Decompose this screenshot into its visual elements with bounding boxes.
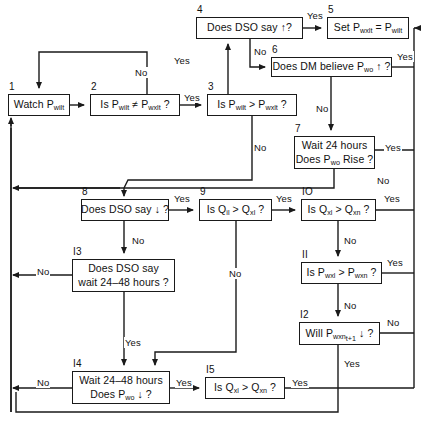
- lbl-13-yes: Yes: [124, 337, 142, 348]
- lbl-6-no: No: [315, 103, 329, 114]
- edge-3-no-down: [124, 116, 252, 188]
- lbl-8-no: No: [131, 235, 145, 246]
- lbl-15-yes: Yes: [291, 377, 309, 388]
- lbl-4-no: No: [253, 46, 267, 57]
- lbl-12-yes: Yes: [343, 358, 361, 369]
- node-15[interactable]: Is Qxl > Qxn ?: [205, 377, 285, 399]
- node-number-3: 3: [208, 81, 214, 92]
- node-8-line-0: Does DSO say ↓ ?: [81, 203, 169, 216]
- node-number-1: 1: [9, 81, 15, 92]
- lbl-2-yes: Yes: [183, 92, 201, 103]
- lbl-14-yes: Yes: [175, 377, 193, 388]
- lbl-6-yes: Yes: [396, 51, 414, 62]
- lbl-8-yes: Yes: [173, 193, 191, 204]
- node-11[interactable]: Is Pwxl > Pwxn ?: [301, 262, 382, 284]
- lbl-2-no: No: [134, 67, 148, 78]
- node-7-line-0: Wait 24 hours: [302, 139, 368, 152]
- node-number-7: 7: [295, 123, 301, 134]
- lbl-11-no: No: [343, 300, 357, 311]
- lbl-3-yes: Yes: [173, 55, 191, 66]
- node-number-15: I5: [206, 364, 215, 375]
- node-13[interactable]: Does DSO saywait 24–48 hours ?: [72, 259, 175, 292]
- node-number-10: IO: [302, 186, 313, 197]
- node-12-line-0: Will Pwxnt+1 ↓ ?: [306, 327, 374, 340]
- lbl-10-no: No: [343, 235, 357, 246]
- edge-bottom-loop: [16, 388, 338, 412]
- node-4-line-0: Does DSO say ↑?: [207, 21, 292, 34]
- lbl-4-yes: Yes: [306, 10, 324, 21]
- flowchart-canvas: 1Watch Pwilt2Is Pwilt ≠ Pwxlt ?3Is Pwilt…: [0, 0, 421, 432]
- node-2[interactable]: Is Pwilt ≠ Pwxlt ?: [90, 94, 180, 116]
- node-3-line-0: Is Pwilt > Pwxlt ?: [217, 98, 287, 111]
- node-number-2: 2: [91, 81, 97, 92]
- node-13-line-0: Does DSO say: [88, 262, 159, 275]
- node-10[interactable]: Is Qxl > Qxn ?: [301, 199, 376, 221]
- node-number-5: 5: [328, 4, 334, 15]
- node-9[interactable]: Is Qil > Qxl ?: [199, 199, 272, 221]
- node-number-11: II: [302, 249, 308, 260]
- lbl-14-no: No: [36, 377, 50, 388]
- node-6[interactable]: Does DM believe Pwo ↑ ?: [271, 57, 392, 77]
- lbl-12-no: No: [386, 317, 400, 328]
- lbl-3-no: No: [253, 142, 267, 153]
- node-4[interactable]: Does DSO say ↑?: [196, 17, 303, 39]
- node-number-4: 4: [197, 4, 203, 15]
- node-7-line-1: Does Pwo Rise ?: [296, 153, 374, 166]
- node-5[interactable]: Set Pwxlt = Pwilt: [327, 17, 409, 39]
- node-5-line-0: Set Pwxlt = Pwilt: [334, 21, 402, 34]
- node-14[interactable]: Wait 24–48 hoursDoes Pwo ↓ ?: [72, 371, 170, 404]
- node-11-line-0: Is Pwxl > Pwxn ?: [306, 266, 376, 279]
- lbl-9-no: No: [228, 268, 242, 279]
- lbl-13-no: No: [36, 266, 50, 277]
- node-number-14: I4: [73, 358, 82, 369]
- node-2-line-0: Is Pwilt ≠ Pwxlt ?: [100, 98, 169, 111]
- node-13-line-1: wait 24–48 hours ?: [78, 276, 169, 289]
- node-number-12: I2: [300, 309, 309, 320]
- node-9-line-0: Is Qil > Qxl ?: [207, 203, 265, 216]
- edge-9-no-to-14: [155, 221, 236, 365]
- node-1-line-0: Watch Pwilt: [14, 98, 64, 111]
- node-12[interactable]: Will Pwxnt+1 ↓ ?: [299, 322, 380, 345]
- lbl-9-yes: Yes: [275, 193, 293, 204]
- node-6-line-0: Does DM believe Pwo ↑ ?: [272, 60, 390, 73]
- node-7[interactable]: Wait 24 hoursDoes Pwo Rise ?: [294, 136, 375, 169]
- lbl-7-no: No: [376, 175, 390, 186]
- lbl-11-yes: Yes: [386, 257, 404, 268]
- node-number-8: 8: [82, 186, 88, 197]
- lbl-10-yes: Yes: [383, 193, 401, 204]
- node-3[interactable]: Is Pwilt > Pwxlt ?: [207, 94, 297, 116]
- node-15-line-0: Is Qxl > Qxn ?: [214, 381, 276, 394]
- node-14-line-1: Does Pwo ↓ ?: [90, 388, 152, 401]
- node-10-line-0: Is Qxl > Qxn ?: [308, 203, 370, 216]
- node-number-13: I3: [73, 246, 82, 257]
- lbl-7-yes: Yes: [384, 142, 402, 153]
- node-8[interactable]: Does DSO say ↓ ?: [81, 199, 169, 221]
- node-1[interactable]: Watch Pwilt: [8, 94, 70, 116]
- node-number-9: 9: [200, 186, 206, 197]
- node-14-line-0: Wait 24–48 hours: [79, 374, 163, 387]
- node-number-6: 6: [272, 44, 278, 55]
